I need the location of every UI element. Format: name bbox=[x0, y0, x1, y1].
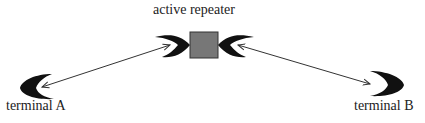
repeater-antenna-right-icon bbox=[218, 35, 254, 57]
link-repeater-b bbox=[238, 45, 370, 84]
repeater-antenna-left-icon bbox=[155, 35, 190, 57]
terminal-b-antenna-icon bbox=[370, 71, 404, 96]
link-a-repeater bbox=[42, 45, 170, 87]
repeater-box bbox=[190, 32, 218, 58]
diagram-canvas bbox=[0, 0, 425, 123]
terminal-a-antenna-icon bbox=[20, 74, 54, 99]
